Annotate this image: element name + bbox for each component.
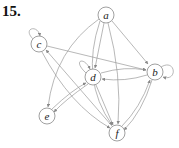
edge-d-b [101, 69, 146, 73]
edge-a-b [112, 21, 148, 64]
node-d: d [85, 69, 101, 85]
edge-d-f [96, 85, 113, 125]
node-c-label: c [37, 38, 42, 50]
node-f: f [109, 125, 125, 141]
edge-f-b [122, 80, 150, 126]
edge-b-d [102, 75, 147, 80]
edge-f-c [46, 50, 112, 126]
node-e: e [39, 108, 55, 124]
node-e-label: e [45, 110, 50, 122]
node-d-label: d [90, 71, 96, 83]
nodes: a b c d e f [31, 7, 163, 141]
edge-a-e [48, 19, 99, 107]
node-a: a [98, 7, 114, 23]
node-a-label: a [103, 9, 109, 21]
node-b: b [147, 64, 163, 80]
edge-e-d [52, 83, 86, 109]
edge-c-b [47, 46, 146, 70]
edge-a-d [95, 23, 104, 68]
directed-graph: a b c d e f [0, 0, 179, 148]
node-b-label: b [152, 66, 158, 78]
edge-a-f [108, 23, 119, 124]
node-c: c [31, 36, 47, 52]
